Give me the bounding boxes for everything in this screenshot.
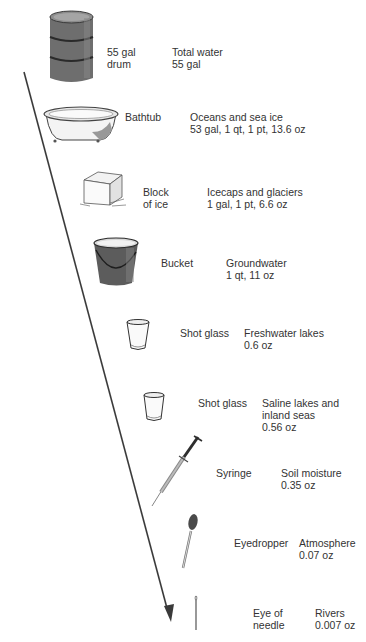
container-label-ice-block: Block of ice xyxy=(143,186,169,210)
reservoir-amount: 0.07 oz xyxy=(299,549,356,561)
container-line: drum xyxy=(107,58,136,70)
container-line: Shot glass xyxy=(198,397,247,409)
drum-icon xyxy=(50,11,93,82)
container-line: needle xyxy=(253,619,285,631)
reservoir-groundwater: Groundwater 1 qt, 11 oz xyxy=(226,257,287,281)
reservoir-name: Saline lakes and xyxy=(262,397,339,409)
reservoir-amount: 1 gal, 1 pt, 6.6 oz xyxy=(207,198,303,210)
bathtub-icon xyxy=(44,107,118,143)
reservoir-name: Icecaps and glaciers xyxy=(207,186,303,198)
container-label-eyedropper: Eyedropper xyxy=(234,537,288,549)
container-line: Bathtub xyxy=(125,111,161,123)
reservoir-amount: 0.56 oz xyxy=(262,421,339,433)
container-label-bathtub: Bathtub xyxy=(125,111,161,123)
shot-glass-icon xyxy=(144,393,164,421)
container-line: Block xyxy=(143,186,169,198)
container-line: Bucket xyxy=(161,257,193,269)
container-label-shot-glass: Shot glass xyxy=(198,397,247,409)
bucket-icon xyxy=(94,238,138,286)
reservoir-oceans: Oceans and sea ice 53 gal, 1 qt, 1 pt, 1… xyxy=(190,111,306,135)
reservoir-amount: 0.6 oz xyxy=(244,339,324,351)
container-label-shot-glass: Shot glass xyxy=(180,327,229,339)
container-label-drum: 55 gal drum xyxy=(107,46,136,70)
reservoir-rivers: Rivers 0.007 oz xyxy=(315,607,355,631)
container-line: Shot glass xyxy=(180,327,229,339)
container-line: Eyedropper xyxy=(234,537,288,549)
container-line: of ice xyxy=(143,198,169,210)
reservoir-name: Rivers xyxy=(315,607,355,619)
reservoir-name: Oceans and sea ice xyxy=(190,111,306,123)
reservoir-amount: 55 gal xyxy=(172,58,223,70)
syringe-icon xyxy=(152,436,202,506)
reservoir-amount: 0.007 oz xyxy=(315,619,355,631)
container-line: Eye of xyxy=(253,607,285,619)
reservoir-icecaps: Icecaps and glaciers 1 gal, 1 pt, 6.6 oz xyxy=(207,186,303,210)
reservoir-name: Soil moisture xyxy=(281,467,342,479)
reservoir-freshwater-lakes: Freshwater lakes 0.6 oz xyxy=(244,327,324,351)
container-line: 55 gal xyxy=(107,46,136,58)
reservoir-atmosphere: Atmosphere 0.07 oz xyxy=(299,537,356,561)
reservoir-name: inland seas xyxy=(262,409,339,421)
reservoir-soil-moisture: Soil moisture 0.35 oz xyxy=(281,467,342,491)
shot-glass-icon xyxy=(127,320,149,350)
container-label-syringe: Syringe xyxy=(216,467,252,479)
reservoir-amount: 53 gal, 1 qt, 1 pt, 13.6 oz xyxy=(190,123,306,135)
eyedropper-icon xyxy=(183,513,199,568)
container-line: Syringe xyxy=(216,467,252,479)
reservoir-saline-lakes: Saline lakes and inland seas 0.56 oz xyxy=(262,397,339,433)
reservoir-name: Freshwater lakes xyxy=(244,327,324,339)
reservoir-amount: 1 qt, 11 oz xyxy=(226,269,287,281)
decreasing-volume-arrow xyxy=(24,72,174,622)
reservoir-amount: 0.35 oz xyxy=(281,479,342,491)
container-label-needle: Eye of needle xyxy=(253,607,285,631)
reservoir-total-water: Total water 55 gal xyxy=(172,46,223,70)
reservoir-name: Groundwater xyxy=(226,257,287,269)
reservoir-name: Total water xyxy=(172,46,223,58)
needle-icon xyxy=(195,596,197,630)
ice-block-icon xyxy=(80,172,126,206)
container-label-bucket: Bucket xyxy=(161,257,193,269)
reservoir-name: Atmosphere xyxy=(299,537,356,549)
